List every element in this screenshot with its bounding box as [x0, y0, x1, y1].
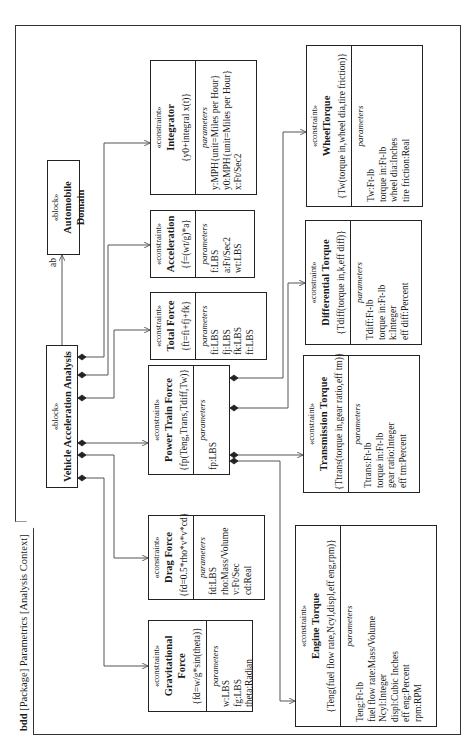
parameter: fk:LBS [233, 297, 245, 355]
constraint-expression: {fd=w/g*sin(theta)} [191, 623, 204, 709]
constraint-engine-torque[interactable]: «constraint» Engine Torque {Teng(fuel fl… [295, 525, 437, 727]
role-label: ab [48, 258, 58, 267]
constraint-differential-torque[interactable]: «constraint» Differential Torque {Tdiff(… [305, 220, 422, 345]
constraint-gravitational-force[interactable]: «constraint» Gravitational Force {fd=w/g… [148, 620, 253, 712]
parameters-compartment: parameters fi:LBS fj:LBS fk:LBS ft:LBS [195, 293, 266, 359]
parameters-title: parameters [209, 625, 221, 707]
parameter: displ:Cubic Inches [390, 530, 402, 722]
composition-diamond [78, 354, 86, 360]
parameter: wheel dia:Inches [389, 50, 401, 202]
parameter: eff tm:Percent [398, 360, 410, 488]
constraint-header: «constraint» Drag Force {fd=0.5*rho*v*v*… [149, 516, 193, 599]
parameter: fd:LBS [208, 520, 220, 595]
block-automobile-domain[interactable]: «block» Automobile Domain [47, 160, 80, 255]
constraint-total-force[interactable]: «constraint» Total Force {ft=fi+fj+fk} p… [150, 292, 267, 360]
parameters-compartment: parameters Teng:Ft-lb fuel flow rate:Mas… [340, 526, 436, 726]
stereotype: «constraint» [153, 63, 164, 192]
parameter: eff diff:Percent [400, 225, 412, 340]
parameter: theta:Radian [244, 625, 256, 707]
constraint-name: Total Force [164, 295, 177, 357]
constraint-header: «constraint» Differential Torque {Tdiff(… [306, 221, 350, 344]
composition-diamond [230, 405, 238, 411]
parameters-compartment: parameters Ttrans:Ft-lb torque in:Ft-lb … [348, 356, 419, 492]
parameter: wt:LBS [233, 215, 245, 273]
constraint-expression: {Tdiff(torque in,k,eff diff)} [335, 223, 348, 342]
stereotype: «constraint» [153, 213, 164, 275]
parameter: x:Ft/Sec2 [233, 65, 245, 190]
constraint-power-train-force[interactable]: «constraint» Power Train Force {fp(Teng,… [148, 365, 230, 475]
parameter: Tdiff:Ft-lb [365, 225, 377, 340]
constraint-expression: {f=(wt/g)*a} [180, 213, 193, 275]
constraint-header: «constraint» Power Train Force {fp(Teng,… [149, 366, 193, 474]
parameters-title: parameters [196, 370, 208, 470]
diagram-canvas: bdd [Package] Parametrics [Analysis Cont… [0, 0, 470, 753]
parameter: fg:LBS [233, 625, 245, 707]
parameter: cd:Real [243, 520, 255, 595]
stereotype: «block» [50, 348, 61, 485]
parameters-title: parameters [198, 297, 210, 355]
constraint-header: «constraint» Engine Torque {Teng(fuel fl… [296, 526, 340, 726]
parameter: v:Ft/Sec [231, 520, 243, 595]
constraint-header: «constraint» Acceleration {f=(wt/g)*a} [151, 211, 195, 277]
constraint-header: «constraint» Total Force {ft=fi+fj+fk} [151, 293, 195, 359]
stereotype: «constraint» [151, 623, 162, 709]
constraint-name: Differential Torque [319, 223, 332, 342]
constraint-expression: {fd=0.5*rho*v*v*cd} [178, 518, 191, 597]
stereotype: «block» [50, 163, 61, 252]
connector-drag [78, 455, 148, 558]
composition-diamond [78, 440, 86, 446]
parameters-title: parameters [198, 215, 210, 273]
constraint-acceleration[interactable]: «constraint» Acceleration {f=(wt/g)*a} p… [150, 210, 255, 278]
parameters-compartment: parameters Tw:Ft-lb torque in:Ft-lb whee… [351, 46, 422, 206]
composition-diamond [230, 452, 238, 458]
parameters-title: parameters [354, 50, 366, 202]
parameters-title: parameters [198, 65, 210, 190]
composition-diamond [78, 452, 86, 458]
parameters-compartment: parameters fp:LBS [193, 366, 229, 474]
constraint-drag-force[interactable]: «constraint» Drag Force {fd=0.5*rho*v*v*… [148, 515, 265, 600]
parameter: y:MPH{unit=Miles per Hour} [210, 65, 222, 190]
constraint-transmission-torque[interactable]: «constraint» Transmission Torque {Ttrans… [303, 355, 420, 493]
composition-diamond [78, 372, 86, 378]
constraint-name: Gravitational Force [162, 623, 188, 709]
parameter: ft:LBS [245, 297, 257, 355]
parameter: rho:Mass/Volume [220, 520, 232, 595]
constraint-name: Drag Force [162, 518, 175, 597]
block-vehicle-acceleration-analysis[interactable]: «block» Vehicle Acceleration Analysis [46, 345, 78, 488]
block-header: «block» Automobile Domain [48, 161, 89, 254]
parameter: gear ratio:Integer [386, 360, 398, 488]
constraint-expression: {Teng(fuel flow rate,Ncyl,displ,eff eng,… [325, 528, 338, 724]
constraint-wheel-torque[interactable]: «constraint» WheelTorque {Tw(torque in,w… [306, 45, 423, 207]
block-header: «block» Vehicle Acceleration Analysis [47, 346, 77, 487]
stereotype: «constraint» [151, 518, 162, 597]
parameter: rpm:RPM [413, 530, 425, 722]
parameters-title: parameters [343, 530, 355, 722]
parameters-title: parameters [353, 225, 365, 340]
parameters-compartment: parameters y:MPH{unit=Miles per Hour} y0… [195, 61, 256, 194]
constraint-name: Power Train Force [162, 368, 175, 472]
parameters-compartment: parameters fd:LBS rho:Mass/Volume v:Ft/S… [193, 516, 264, 599]
constraint-expression: {fp(Teng,Trans,Tdiff,Tw)} [178, 368, 191, 472]
constraint-integrator[interactable]: «constraint» Integrator {y0+integral x(t… [150, 60, 257, 195]
parameter: torque in:Ft-lb [377, 225, 389, 340]
parameter: k:Integer [388, 225, 400, 340]
block-name: Vehicle Acceleration Analysis [61, 348, 74, 485]
constraint-expression: {ft=fi+fj+fk} [180, 295, 193, 357]
composition-diamond [230, 375, 238, 381]
stereotype: «constraint» [151, 368, 162, 472]
parameter: torque in:Ft-lb [375, 360, 387, 488]
parameters-title: parameters [351, 360, 363, 488]
stereotype: «constraint» [298, 528, 309, 724]
constraint-name: Transmission Torque [317, 358, 330, 490]
parameter: fj:LBS [222, 297, 234, 355]
parameter: torque in:Ft-lb [378, 50, 390, 202]
constraint-header: «constraint» WheelTorque {Tw(torque in,w… [307, 46, 351, 206]
constraint-header: «constraint» Gravitational Force {fd=w/g… [149, 621, 206, 711]
connector-total-force [78, 330, 150, 398]
constraint-name: WheelTorque [320, 48, 333, 204]
constraint-header: «constraint» Integrator {y0+integral x(t… [151, 61, 195, 194]
constraint-name: Engine Torque [309, 528, 322, 724]
parameters-compartment: parameters w:LBS fg:LBS theta:Radian [206, 621, 258, 711]
parameter: f:LBS [210, 215, 222, 273]
constraint-expression: {y0+integral x(t)} [180, 63, 193, 192]
